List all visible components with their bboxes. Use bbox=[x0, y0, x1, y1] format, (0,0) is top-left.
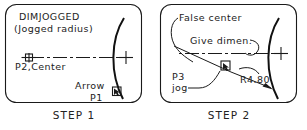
step-2-caption: STEP 2 bbox=[155, 109, 303, 121]
label-arrow-point: P1 bbox=[90, 92, 103, 103]
label-radius-dimension: R4.80 bbox=[240, 74, 270, 85]
label-jog-point: P3 bbox=[172, 71, 185, 82]
step-1-panel: DIMJOGGED (Jogged radius) P2,Center Arro… bbox=[0, 0, 148, 130]
step-1-caption: STEP 1 bbox=[0, 109, 148, 121]
label-give-dimension: Give dimen. bbox=[190, 35, 252, 46]
label-false-center: False center bbox=[179, 12, 242, 23]
step-2-panel: False center Give dimen. P3 jog R4.80 ST… bbox=[155, 0, 303, 130]
label-command-sub: (Jogged radius) bbox=[14, 23, 93, 34]
label-center-point: P2,Center bbox=[15, 61, 66, 72]
dimjogged-figure: DIMJOGGED (Jogged radius) P2,Center Arro… bbox=[0, 0, 307, 130]
label-command: DIMJOGGED bbox=[19, 11, 80, 22]
label-jog-word: jog bbox=[172, 82, 188, 93]
label-arrow: Arrow bbox=[75, 80, 105, 91]
